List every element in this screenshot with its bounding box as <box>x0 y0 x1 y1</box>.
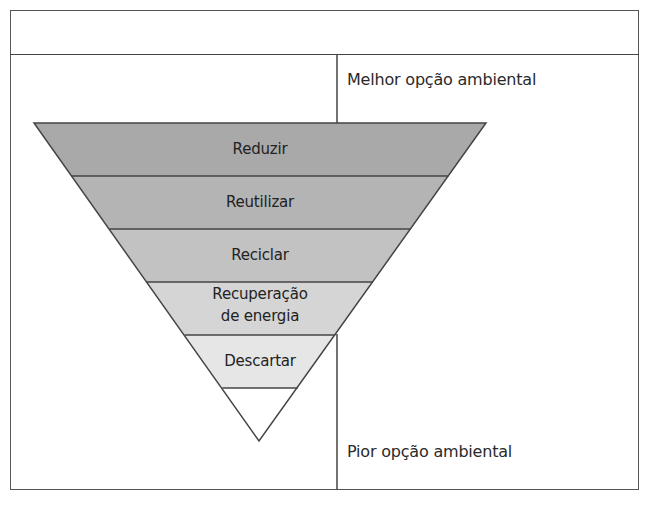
waste-hierarchy-diagram: Reduzir Reutilizar Reciclar Recuperação … <box>0 0 647 507</box>
worst-option-label: Pior opção ambiental <box>347 442 512 462</box>
label-recuperacao-line1: Recuperação <box>212 285 307 304</box>
label-recuperacao-line2: de energia <box>221 307 299 326</box>
label-reutilizar: Reutilizar <box>226 193 294 212</box>
label-reduzir: Reduzir <box>233 140 288 159</box>
label-descartar: Descartar <box>224 352 296 371</box>
best-option-label: Melhor opção ambiental <box>347 70 536 90</box>
inverted-pyramid <box>0 0 647 507</box>
label-reciclar: Reciclar <box>231 246 289 265</box>
band-tip <box>222 388 297 441</box>
